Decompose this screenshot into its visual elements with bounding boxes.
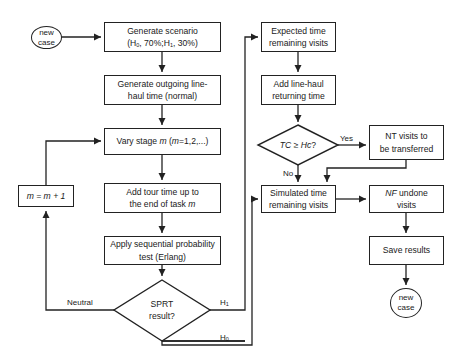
apply-sprt-box: Apply sequential probability test (Erlan… <box>104 236 221 265</box>
add-tour-time-line2: the end of task m <box>126 198 199 211</box>
vary-stage-box: Vary stage m (m=1,2,...) <box>104 128 221 155</box>
apply-sprt-line1: Apply sequential probability <box>110 238 215 251</box>
add-line-haul-line2: returning time <box>272 90 325 103</box>
increment-m-text: m = m + 1 <box>27 190 66 203</box>
generate-scenario-box: Generate scenario (H0, 70%;H1, 30%) <box>104 22 221 52</box>
end-node: new case <box>390 288 422 318</box>
add-line-haul-box: Add line-haul returning time <box>261 75 336 105</box>
nf-undone-line1: NF undone <box>385 187 428 200</box>
sprt-decision-line1: SPRT <box>149 298 175 311</box>
start-line1: new <box>38 28 55 38</box>
h1-label: H1 <box>220 298 229 308</box>
yes-label: Yes <box>340 134 353 144</box>
nt-visits-line1: NT visits to <box>380 130 434 143</box>
increment-m-box: m = m + 1 <box>18 185 74 207</box>
generate-outgoing-box: Generate outgoing line- haul time (norma… <box>104 75 221 105</box>
start-line2: case <box>38 38 55 48</box>
expected-time-line2: remaining visits <box>269 37 328 50</box>
neutral-label: Neutral <box>67 298 93 308</box>
end-line2: case <box>398 303 415 313</box>
add-tour-time-line1: Add tour time up to <box>126 186 199 199</box>
nf-undone-line2: visits <box>385 199 428 212</box>
no-label: No <box>283 169 293 179</box>
tc-decision-text: TC ≥ Hc? <box>266 138 330 152</box>
apply-sprt-line2: test (Erlang) <box>110 251 215 264</box>
save-results-box: Save results <box>369 236 444 265</box>
simulated-time-box: Simulated time remaining visits <box>261 185 336 213</box>
add-line-haul-line1: Add line-haul <box>272 78 325 91</box>
simulated-time-line2: remaining visits <box>269 199 328 212</box>
expected-time-line1: Expected time <box>269 25 328 38</box>
add-tour-time-box: Add tour time up to the end of task m <box>104 183 221 213</box>
sprt-decision-text: SPRT result? <box>124 295 200 325</box>
nt-visits-box: NT visits to be transferred <box>369 125 444 160</box>
end-line1: new <box>398 293 415 303</box>
sprt-decision-line2: result? <box>149 310 175 323</box>
generate-outgoing-line1: Generate outgoing line- <box>118 78 208 91</box>
h0-label: H0 <box>220 333 229 343</box>
nt-visits-line2: be transferred <box>380 143 434 156</box>
generate-scenario-title: Generate scenario <box>127 25 198 38</box>
start-node: new case <box>31 26 62 49</box>
expected-time-box: Expected time remaining visits <box>261 22 336 52</box>
generate-scenario-probabilities: (H0, 70%;H1, 30%) <box>127 37 198 50</box>
save-results-text: Save results <box>383 244 430 257</box>
vary-stage-text: Vary stage m (m=1,2,...) <box>117 135 209 148</box>
generate-outgoing-line2: haul time (normal) <box>118 90 208 103</box>
nf-undone-box: NF undone visits <box>369 185 444 213</box>
simulated-time-line1: Simulated time <box>269 187 328 200</box>
